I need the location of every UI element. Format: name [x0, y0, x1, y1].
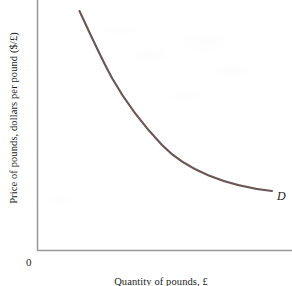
- demand-curve-plot: [0, 0, 292, 286]
- demand-curve-path: [80, 11, 273, 191]
- origin-label: 0: [26, 256, 32, 268]
- x-axis-label: Quantity of pounds, £: [114, 276, 208, 286]
- y-axis-label: Price of pounds, dollars per pound ($/£): [8, 32, 19, 204]
- demand-curve-label: D: [277, 189, 286, 204]
- demand-curve-figure: Price of pounds, dollars per pound ($/£)…: [0, 0, 292, 286]
